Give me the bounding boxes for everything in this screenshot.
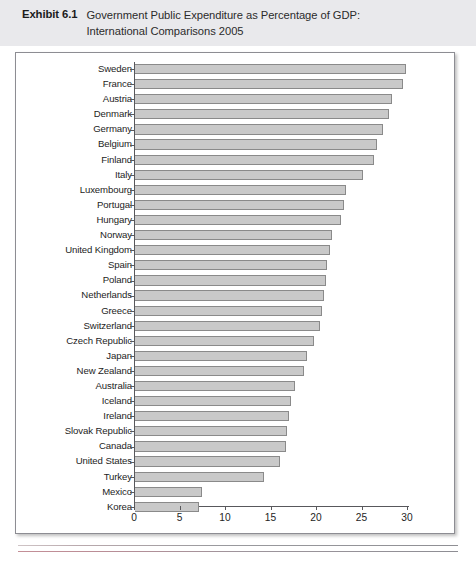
bar-row: Denmark bbox=[16, 107, 454, 122]
bar-row: Canada bbox=[16, 439, 454, 454]
y-axis-tick bbox=[130, 175, 134, 176]
y-axis-tick bbox=[130, 281, 134, 282]
y-axis-tick bbox=[130, 69, 134, 70]
x-axis-tick bbox=[362, 506, 363, 510]
bar-chart-plot-area: SwedenFranceAustriaDenmarkGermanyBelgium… bbox=[16, 53, 454, 533]
bar bbox=[135, 230, 332, 240]
bar-category-label: Germany bbox=[0, 122, 132, 135]
bar-category-label: Austria bbox=[0, 92, 132, 105]
y-axis-tick bbox=[130, 205, 134, 206]
chart-frame: SwedenFranceAustriaDenmarkGermanyBelgium… bbox=[15, 52, 455, 534]
bar bbox=[135, 441, 286, 451]
bar-category-label: Hungary bbox=[0, 213, 132, 226]
bar-row: Netherlands bbox=[16, 288, 454, 303]
bar bbox=[135, 124, 383, 134]
y-axis-tick bbox=[130, 447, 134, 448]
x-axis-tick bbox=[134, 506, 135, 510]
y-axis-tick bbox=[130, 311, 134, 312]
bar-row: Greece bbox=[16, 304, 454, 319]
bar bbox=[135, 260, 327, 270]
bar bbox=[135, 275, 326, 285]
x-axis-tick bbox=[225, 506, 226, 510]
bar-category-label: Turkey bbox=[0, 470, 132, 483]
bar-row: France bbox=[16, 77, 454, 92]
bar-row: Finland bbox=[16, 153, 454, 168]
y-axis-tick bbox=[130, 99, 134, 100]
y-axis-tick bbox=[130, 250, 134, 251]
bar bbox=[135, 321, 320, 331]
bar-category-label: Czech Republic bbox=[0, 334, 132, 347]
y-axis-tick bbox=[130, 341, 134, 342]
bar-row: Turkey bbox=[16, 470, 454, 485]
x-axis-tick-label: 15 bbox=[256, 512, 286, 523]
y-axis-tick bbox=[130, 160, 134, 161]
exhibit-header-band: Exhibit 6.1 Government Public Expenditur… bbox=[0, 0, 476, 46]
bar bbox=[135, 245, 330, 255]
bar bbox=[135, 487, 202, 497]
x-axis-tick-label: 0 bbox=[119, 512, 149, 523]
bar-rows: SwedenFranceAustriaDenmarkGermanyBelgium… bbox=[16, 62, 454, 515]
y-axis-tick bbox=[130, 265, 134, 266]
bar bbox=[135, 411, 289, 421]
bar bbox=[135, 351, 307, 361]
bar-category-label: Canada bbox=[0, 439, 132, 452]
y-axis-tick bbox=[130, 296, 134, 297]
bar bbox=[135, 290, 324, 300]
bar-category-label: United States bbox=[0, 454, 132, 467]
exhibit-header-inner: Exhibit 6.1 Government Public Expenditur… bbox=[22, 8, 452, 39]
y-axis-tick bbox=[130, 114, 134, 115]
bar-row: Iceland bbox=[16, 394, 454, 409]
bar-row: United States bbox=[16, 454, 454, 469]
x-axis-tick-label: 5 bbox=[165, 512, 195, 523]
bar-category-label: Spain bbox=[0, 258, 132, 271]
x-axis-tick bbox=[407, 506, 408, 510]
bar-category-label: Italy bbox=[0, 168, 132, 181]
y-axis-tick bbox=[130, 130, 134, 131]
y-axis-tick bbox=[130, 190, 134, 191]
y-axis-tick bbox=[130, 235, 134, 236]
x-axis-tick-label: 25 bbox=[347, 512, 377, 523]
y-axis-tick bbox=[130, 145, 134, 146]
x-axis-tick-label: 20 bbox=[301, 512, 331, 523]
bar-row: Australia bbox=[16, 379, 454, 394]
bar-row: Spain bbox=[16, 258, 454, 273]
bar-category-label: New Zealand bbox=[0, 364, 132, 377]
bar-category-label: Sweden bbox=[0, 62, 132, 75]
bar bbox=[135, 381, 295, 391]
bar bbox=[135, 502, 199, 512]
y-axis-tick bbox=[130, 220, 134, 221]
bar bbox=[135, 185, 346, 195]
bar-row: Belgium bbox=[16, 137, 454, 152]
bar-row: Sweden bbox=[16, 62, 454, 77]
bar-row: New Zealand bbox=[16, 364, 454, 379]
bar-category-label: Finland bbox=[0, 153, 132, 166]
bar bbox=[135, 426, 287, 436]
exhibit-number-label: Exhibit 6.1 bbox=[22, 8, 77, 20]
y-axis-tick bbox=[130, 356, 134, 357]
bar-category-label: Belgium bbox=[0, 137, 132, 150]
y-axis-tick bbox=[130, 431, 134, 432]
bar bbox=[135, 79, 403, 89]
bar-category-label: Netherlands bbox=[0, 288, 132, 301]
bar-category-label: Greece bbox=[0, 304, 132, 317]
bar-category-label: Korea bbox=[0, 500, 132, 513]
bar-row: Italy bbox=[16, 168, 454, 183]
exhibit-title: Government Public Expenditure as Percent… bbox=[86, 8, 360, 39]
bar bbox=[135, 109, 389, 119]
bar-row: Luxembourg bbox=[16, 183, 454, 198]
x-axis-tick bbox=[271, 506, 272, 510]
bar bbox=[135, 306, 322, 316]
y-axis-tick bbox=[130, 492, 134, 493]
bar-category-label: Norway bbox=[0, 228, 132, 241]
bar-category-label: Portugal bbox=[0, 198, 132, 211]
y-axis-tick bbox=[130, 477, 134, 478]
x-axis-tick bbox=[180, 506, 181, 510]
bar bbox=[135, 396, 291, 406]
bar-category-label: Poland bbox=[0, 273, 132, 286]
bar-row: Norway bbox=[16, 228, 454, 243]
bar-row: Mexico bbox=[16, 485, 454, 500]
bar-row: Austria bbox=[16, 92, 454, 107]
bar-row: Slovak Republic bbox=[16, 424, 454, 439]
x-axis-tick bbox=[316, 506, 317, 510]
bar bbox=[135, 472, 264, 482]
